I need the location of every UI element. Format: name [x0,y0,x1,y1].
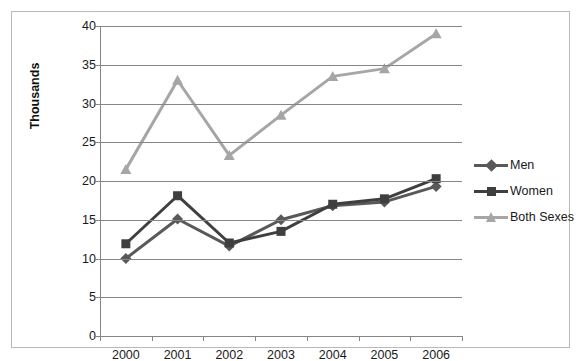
chart-figure: Thousands 0510152025303540 2000200120022… [11,11,570,348]
gridline [100,297,462,298]
data-point-marker [172,75,183,85]
y-axis-tick-labels: 0510152025303540 [56,26,96,336]
y-axis-tick [95,297,100,298]
y-axis-tick [95,220,100,221]
y-axis-tick [95,142,100,143]
x-axis-tick [255,336,256,341]
y-axis-tick-label: 40 [62,19,96,33]
series-line [126,34,436,170]
legend-marker-square-icon [487,187,496,196]
gridline [100,26,462,27]
y-axis-tick-label: 30 [62,97,96,111]
legend-item-women[interactable]: Women [474,178,569,204]
legend-marker-triangle-icon [486,212,496,222]
data-point-marker [225,239,234,248]
y-axis-tick-label: 25 [62,135,96,149]
data-point-marker [277,227,286,236]
legend-item-men[interactable]: Men [474,152,569,178]
gridline [100,259,462,260]
legend-marker-diamond-icon [485,159,498,172]
gridline [100,104,462,105]
gridline [100,220,462,221]
x-axis-tick-label: 2005 [359,348,409,361]
x-axis-tick [100,336,101,341]
x-axis-tick-label: 2004 [308,348,358,361]
legend-label: Both Sexes [510,210,574,224]
x-axis-tick [152,336,153,341]
data-point-marker [173,191,182,200]
gridline [100,65,462,66]
x-axis-tick [203,336,204,341]
x-axis-tick-label: 2000 [101,348,151,361]
gridline [100,181,462,182]
gridline [100,336,462,337]
series-women [121,174,440,248]
series-men [120,181,441,264]
y-axis-tick-label: 35 [62,58,96,72]
x-axis-tick [307,336,308,341]
plot-area [100,26,462,336]
x-axis-tick [410,336,411,341]
y-axis-tick [95,104,100,105]
chart-legend: MenWomenBoth Sexes [474,152,569,230]
gridline [100,142,462,143]
x-axis-tick [359,336,360,341]
x-axis-tick-label: 2006 [411,348,461,361]
y-axis-tick-label: 15 [62,213,96,227]
x-axis-tick-label: 2003 [256,348,306,361]
x-axis-tick-label: 2001 [153,348,203,361]
legend-label: Men [510,158,534,172]
legend-swatch [474,210,508,224]
x-axis-tick-labels: 2000200120022003200420052006 [100,342,462,361]
series-both-sexes [120,28,441,174]
x-axis-tick-label: 2002 [204,348,254,361]
y-axis-title-label: Thousands [28,63,42,130]
data-point-marker [328,200,337,209]
y-axis-tick [95,26,100,27]
y-axis-tick-label: 0 [62,329,96,343]
legend-swatch [474,158,508,172]
data-point-marker [431,28,442,38]
y-axis-tick-label: 20 [62,174,96,188]
y-axis-tick-label: 5 [62,290,96,304]
y-axis-tick [95,65,100,66]
legend-item-both-sexes[interactable]: Both Sexes [474,204,569,230]
data-point-marker [121,239,130,248]
y-axis-title: Thousands [25,26,45,166]
legend-swatch [474,184,508,198]
x-axis-tick [462,336,463,341]
legend-label: Women [510,184,553,198]
y-axis-tick-label: 10 [62,252,96,266]
data-point-marker [380,194,389,203]
y-axis-tick [95,259,100,260]
y-axis-tick [95,181,100,182]
